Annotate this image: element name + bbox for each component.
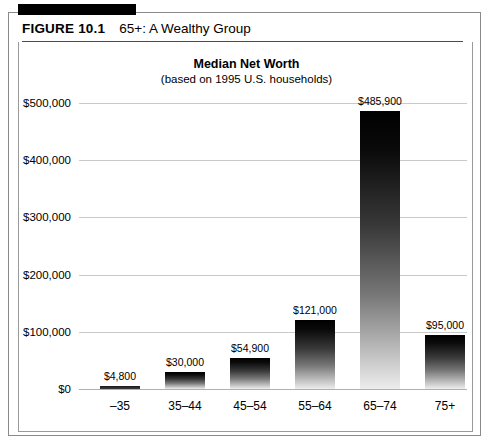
- gridline: [79, 389, 467, 390]
- y-axis-tick-label: $300,000: [23, 211, 71, 223]
- y-axis-tick-label: $100,000: [23, 326, 71, 338]
- bar[interactable]: [165, 372, 205, 389]
- x-axis-tick-label: 45–54: [218, 399, 282, 413]
- bar-slot: $4,800: [88, 103, 152, 389]
- y-axis-tick-label: $200,000: [23, 269, 71, 281]
- y-axis-tick-label: $0: [58, 383, 71, 395]
- chart-subtitle: (based on 1995 U.S. households): [19, 73, 474, 85]
- bar-slot: $95,000: [413, 103, 477, 389]
- bar-value-label: $4,800: [88, 370, 152, 382]
- bar-slot: $485,900: [348, 103, 412, 389]
- bar-value-label: $95,000: [413, 319, 477, 331]
- bar[interactable]: [360, 111, 400, 389]
- figure-caption: FIGURE 10.165+: A Wealthy Group: [22, 20, 462, 38]
- bar-slot: $54,900: [218, 103, 282, 389]
- y-axis-tick-label: $400,000: [23, 154, 71, 166]
- bar-value-label: $54,900: [218, 342, 282, 354]
- x-axis-tick-label: 65–74: [348, 399, 412, 413]
- bar[interactable]: [100, 386, 140, 389]
- bar[interactable]: [425, 335, 465, 389]
- y-axis-tick-label: $500,000: [23, 97, 71, 109]
- bar-value-label: $30,000: [153, 356, 217, 368]
- chart-title: Median Net Worth: [19, 57, 474, 71]
- x-axis-tick-label: 55–64: [283, 399, 347, 413]
- top-black-rule: [18, 4, 136, 15]
- chart-container: Median Net Worth (based on 1995 U.S. hou…: [18, 42, 473, 432]
- bar-value-label: $485,900: [348, 95, 412, 107]
- bar[interactable]: [295, 320, 335, 389]
- bar-value-label: $121,000: [283, 304, 347, 316]
- figure-page: FIGURE 10.165+: A Wealthy Group Median N…: [0, 0, 490, 444]
- x-axis-tick-label: 75+: [413, 399, 477, 413]
- x-axis-tick-label: 35–44: [153, 399, 217, 413]
- bar-slot: $121,000: [283, 103, 347, 389]
- plot-area: $0$100,000$200,000$300,000$400,000$500,0…: [79, 103, 474, 389]
- bar-slot: $30,000: [153, 103, 217, 389]
- x-axis-tick-label: –35: [88, 399, 152, 413]
- bar[interactable]: [230, 358, 270, 389]
- figure-number: FIGURE 10.1: [22, 21, 105, 36]
- figure-title: 65+: A Wealthy Group: [119, 21, 250, 36]
